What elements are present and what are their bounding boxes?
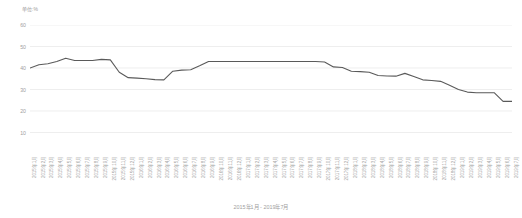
x-axis-tick-label: 2016年12月 bbox=[237, 156, 242, 181]
x-axis-tick-label: 2016年10月 bbox=[219, 156, 224, 181]
x-axis-tick-label: 2017年9月 bbox=[317, 156, 322, 178]
y-axis-tick-labels: 102030405060 bbox=[0, 25, 30, 154]
x-axis-tick-label: 2015年4月 bbox=[58, 156, 63, 178]
x-axis-tick-label: 2015年12月 bbox=[130, 156, 135, 181]
x-axis-tick-label: 2019年4月 bbox=[487, 156, 492, 178]
x-axis-tick-label: 2015年5月 bbox=[67, 156, 72, 178]
x-axis-tick-label: 2016年8月 bbox=[201, 156, 206, 178]
x-axis-tick-label: 2015年10月 bbox=[112, 156, 117, 181]
x-axis-tick-label: 2018年11月 bbox=[442, 156, 447, 180]
y-axis-tick-label: 40 bbox=[20, 65, 26, 71]
x-axis-tick-label: 2019年3月 bbox=[478, 156, 483, 178]
x-axis-tick-label: 2018年3月 bbox=[371, 156, 376, 178]
x-axis-tick-label: 2019年2月 bbox=[469, 156, 474, 178]
x-axis-tick-label: 2015年7月 bbox=[85, 156, 90, 178]
x-axis-tick-label: 2017年4月 bbox=[273, 156, 278, 178]
x-axis-tick-label: 2017年11月 bbox=[335, 156, 340, 180]
x-axis-tick-label: 2018年12月 bbox=[451, 156, 456, 181]
x-axis-tick-label: 2017年5月 bbox=[282, 156, 287, 178]
y-axis-tick-label: 10 bbox=[20, 130, 26, 136]
plot-area bbox=[30, 25, 512, 154]
x-axis-tick-label: 2017年12月 bbox=[344, 156, 349, 181]
x-axis-tick-label: 2015年2月 bbox=[41, 156, 46, 178]
x-axis-tick-label: 2018年2月 bbox=[362, 156, 367, 178]
x-axis-tick-labels: 2015年1月2015年2月2015年3月2015年4月2015年5月2015年… bbox=[30, 156, 512, 200]
x-axis-tick-label: 2016年2月 bbox=[148, 156, 153, 178]
x-axis-tick-label: 2015年3月 bbox=[49, 156, 54, 178]
y-axis-title: 单位:% bbox=[22, 6, 38, 12]
x-axis-tick-label: 2017年2月 bbox=[255, 156, 260, 178]
y-axis-tick-label: 50 bbox=[20, 44, 26, 50]
x-axis-tick-label: 2017年7月 bbox=[299, 156, 304, 178]
x-axis-tick-label: 2019年7月 bbox=[514, 156, 519, 178]
x-axis-tick-label: 2019年6月 bbox=[505, 156, 510, 178]
x-axis-tick-label: 2017年3月 bbox=[264, 156, 269, 178]
x-axis-tick-label: 2018年9月 bbox=[424, 156, 429, 178]
x-axis-tick-label: 2017年1月 bbox=[246, 156, 251, 178]
x-axis-tick-label: 2017年8月 bbox=[308, 156, 313, 178]
y-axis-tick-label: 20 bbox=[20, 108, 26, 114]
x-axis-tick-label: 2016年3月 bbox=[157, 156, 162, 178]
x-axis-tick-label: 2016年5月 bbox=[174, 156, 179, 178]
x-axis-tick-label: 2016年6月 bbox=[183, 156, 188, 178]
x-axis-tick-label: 2018年1月 bbox=[353, 156, 358, 178]
x-axis-tick-label: 2018年8月 bbox=[415, 156, 420, 178]
x-axis-tick-label: 2018年5月 bbox=[389, 156, 394, 178]
x-axis-tick-label: 2016年4月 bbox=[165, 156, 170, 178]
x-axis-tick-label: 2015年11月 bbox=[121, 156, 126, 180]
gridlines bbox=[30, 25, 512, 133]
x-axis-tick-label: 2016年9月 bbox=[210, 156, 215, 178]
x-axis-tick-label: 2018年4月 bbox=[380, 156, 385, 178]
x-axis-tick-label: 2016年7月 bbox=[192, 156, 197, 178]
y-axis-tick-label: 30 bbox=[20, 87, 26, 93]
x-axis-tick-label: 2018年6月 bbox=[398, 156, 403, 178]
x-axis-tick-label: 2016年1月 bbox=[139, 156, 144, 178]
x-axis-tick-label: 2016年11月 bbox=[228, 156, 233, 180]
x-axis-tick-label: 2018年10月 bbox=[433, 156, 438, 181]
x-axis-tick-label: 2017年10月 bbox=[326, 156, 331, 181]
x-axis-tick-label: 2015年1月 bbox=[32, 156, 37, 178]
x-axis-tick-label: 2018年7月 bbox=[406, 156, 411, 178]
x-axis-tick-label: 2015年9月 bbox=[103, 156, 108, 178]
x-axis-tick-label: 2017年6月 bbox=[290, 156, 295, 178]
line-chart: 单位:% 102030405060 2015年1月2015年2月2015年3月2… bbox=[0, 0, 522, 218]
y-axis-tick-label: 60 bbox=[20, 22, 26, 28]
x-axis-tick-label: 2015年8月 bbox=[94, 156, 99, 178]
x-axis-tick-label: 2019年5月 bbox=[496, 156, 501, 178]
chart-svg bbox=[30, 25, 512, 154]
chart-caption: 2015年1月 - 2019年7月 bbox=[0, 203, 522, 211]
x-axis-tick-label: 2019年1月 bbox=[460, 156, 465, 178]
data-series-line bbox=[30, 58, 512, 101]
x-axis-tick-label: 2015年6月 bbox=[76, 156, 81, 178]
